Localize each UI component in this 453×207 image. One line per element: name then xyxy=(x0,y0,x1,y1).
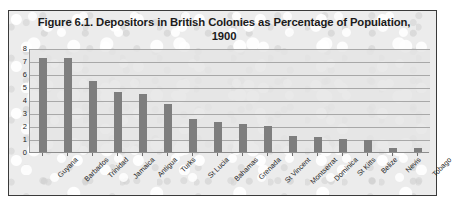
y-axis-tick-label: 2 xyxy=(13,123,27,131)
bar xyxy=(289,136,297,153)
x-axis-labels: GuyanaBarbadosTrinidadJamaicaAntiguaTurk… xyxy=(29,156,429,206)
x-axis-category-label: Barbados xyxy=(83,156,110,183)
bar xyxy=(39,58,47,153)
x-axis-category-label: Jamaica xyxy=(132,156,157,181)
y-axis-tick-label: 1 xyxy=(13,136,27,144)
y-axis-tick-label: 4 xyxy=(13,97,27,105)
x-axis-category-label: Nevis xyxy=(404,156,422,174)
bar xyxy=(314,137,322,153)
x-axis-category-label: Tobago xyxy=(431,156,453,178)
x-axis-category-label: St Lucia xyxy=(207,156,231,180)
x-axis-category-label: Trinidad xyxy=(107,156,131,180)
figure-frame: Figure 6.1. Depositors in British Coloni… xyxy=(8,10,437,196)
x-axis-category-label: Antigua xyxy=(156,156,179,179)
y-axis-tick-label: 5 xyxy=(13,84,27,92)
gridline xyxy=(30,62,430,63)
bar xyxy=(114,92,122,153)
gridline xyxy=(30,75,430,76)
bar xyxy=(264,126,272,153)
bar xyxy=(139,94,147,153)
x-axis-category-label: Montserrat xyxy=(309,156,339,186)
y-axis-tick-label: 6 xyxy=(13,71,27,79)
x-axis-category-label: Bahamas xyxy=(233,156,260,183)
chart-title: Figure 6.1. Depositors in British Coloni… xyxy=(23,15,425,43)
y-axis-tick-label: 7 xyxy=(13,58,27,66)
gridline xyxy=(30,49,430,50)
y-axis-tick-label: 0 xyxy=(13,149,27,157)
bar xyxy=(89,81,97,153)
x-axis-category-label: St Vincent xyxy=(284,156,313,185)
x-axis-category-label: Grenada xyxy=(257,156,282,181)
x-axis-category-label: Guyana xyxy=(56,156,79,179)
bar xyxy=(189,119,197,153)
bar xyxy=(339,139,347,153)
x-axis-category-label: St Kitts xyxy=(356,156,378,178)
x-axis-category-label: Belize xyxy=(380,156,400,176)
x-axis-category-label: Turks xyxy=(179,156,197,174)
bar xyxy=(239,124,247,153)
bar xyxy=(164,104,172,153)
chart-title-line-2: 1900 xyxy=(23,29,425,43)
y-axis-tick-label: 8 xyxy=(13,45,27,53)
bar xyxy=(64,58,72,153)
y-axis-tick-label: 3 xyxy=(13,110,27,118)
bar xyxy=(214,122,222,153)
plot-area xyxy=(29,49,430,153)
y-axis: 876543210 xyxy=(11,49,27,153)
chart-title-line-1: Figure 6.1. Depositors in British Coloni… xyxy=(23,15,425,29)
